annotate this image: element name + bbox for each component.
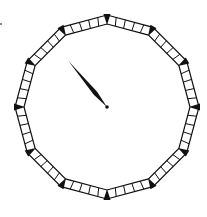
tick-divider [79,22,82,30]
tick-divider [115,188,116,197]
tick-divider [41,48,47,54]
tick-divider [188,98,197,99]
tick-divider [140,25,144,33]
hour-marker [104,189,111,200]
tick-divider [161,167,167,173]
tick-divider [132,22,135,30]
tick-divider [48,41,54,47]
tick-divider [17,98,26,99]
tick-divider [115,17,116,26]
tick-divider [17,115,26,116]
tick-divider [22,132,30,135]
tick-divider [124,186,126,195]
tick-divider [140,181,144,189]
tick-divider [167,161,173,167]
tick-divider [181,140,189,144]
tick-divider [188,115,197,116]
tick-divider [34,54,41,59]
clock-diagram [0,0,207,217]
tick-divider [20,89,29,91]
tick-divider [20,124,29,126]
center-pivot [105,105,109,109]
tick-divider [70,181,74,189]
tick-divider [132,183,135,191]
tick-divider [70,25,74,33]
tick-divider [41,161,47,167]
tick-divider [89,186,91,195]
tick-divider [186,124,195,126]
tick-divider [22,79,30,82]
tick-divider [186,89,195,91]
tick-divider [124,20,126,29]
tick-divider [25,140,33,144]
hour-marker [104,14,111,25]
clock-hand [68,61,108,109]
hour-marker [14,104,25,111]
tick-divider [89,20,91,29]
tick-divider [54,34,59,41]
tick-divider [48,167,54,173]
tick-divider [161,41,167,47]
tick-divider [183,79,191,82]
tick-divider [173,54,180,59]
tick-divider [155,34,160,41]
hand-needle [68,61,107,107]
hour-marker [189,104,200,111]
tick-divider [98,188,99,197]
tick-divider [98,17,99,26]
tick-divider [183,132,191,135]
tick-divider [79,183,82,191]
tick-divider [173,155,180,160]
tick-divider [54,173,59,180]
tick-divider [155,173,160,180]
tick-divider [167,48,173,54]
tick-divider [181,70,189,74]
tick-divider [25,70,33,74]
tick-divider [34,155,41,160]
